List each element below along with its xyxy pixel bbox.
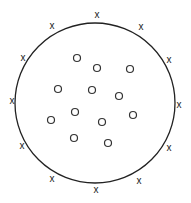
x-mark: x (20, 140, 25, 151)
x-mark: x (94, 184, 99, 195)
x-mark: x (177, 99, 182, 110)
o-mark (130, 112, 137, 119)
x-mark: x (95, 9, 100, 20)
x-mark: x (137, 175, 142, 186)
o-mark (72, 109, 79, 116)
o-mark (105, 140, 112, 147)
boundary-circle (15, 23, 175, 183)
o-mark (55, 86, 62, 93)
o-mark (116, 93, 123, 100)
o-mark (89, 87, 96, 94)
x-mark: x (167, 142, 172, 153)
diagram-canvas: xxxxxxxxxxxx (0, 0, 191, 203)
x-mark: x (139, 21, 144, 32)
x-mark: x (21, 52, 26, 63)
x-mark: x (50, 20, 55, 31)
o-mark (48, 117, 55, 124)
x-mark: x (167, 54, 172, 65)
o-mark (127, 66, 134, 73)
o-mark (94, 65, 101, 72)
o-mark (74, 55, 81, 62)
x-mark: x (50, 173, 55, 184)
inner-o-marks (48, 55, 137, 147)
outer-x-marks: xxxxxxxxxxxx (10, 9, 182, 195)
o-mark (99, 119, 106, 126)
o-mark (71, 135, 78, 142)
x-mark: x (10, 95, 15, 106)
